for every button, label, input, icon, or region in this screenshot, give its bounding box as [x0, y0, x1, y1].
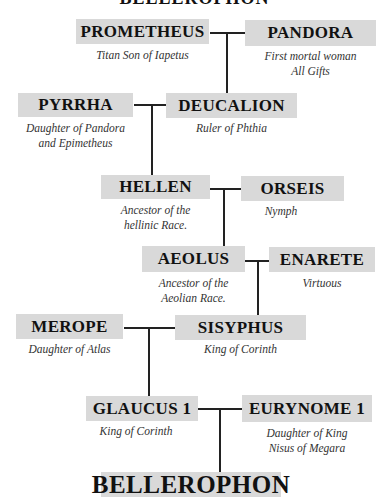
desc-sisyphus: King of Corinth — [175, 342, 306, 357]
desc-aeolus: Ancestor of the Aeolian Race. — [142, 276, 245, 306]
desc-line: Daughter of Pandora — [10, 121, 141, 136]
descent-line — [219, 408, 221, 472]
desc-line: All Gifts — [245, 64, 376, 79]
desc-glaucus: King of Corinth — [86, 424, 186, 439]
node-orseis: ORSEIS — [241, 176, 344, 201]
desc-line: Titan Son of Iapetus — [76, 48, 209, 63]
desc-line: Virtuous — [269, 276, 375, 291]
desc-eurynome: Daughter of King Nisus of Megara — [242, 426, 372, 456]
desc-line: Daughter of Atlas — [10, 342, 129, 357]
page-title: BELLEROPHON — [0, 0, 389, 9]
desc-line: Nymph — [241, 204, 321, 219]
node-enarete: ENARETE — [269, 247, 375, 272]
node-bellerophon: BELLEROPHON — [101, 472, 281, 497]
desc-line: Ruler of Phthia — [166, 121, 297, 136]
descent-line — [151, 104, 153, 175]
node-sisyphus: SISYPHUS — [175, 315, 306, 340]
desc-prometheus: Titan Son of Iapetus — [76, 48, 209, 63]
marriage-line — [134, 104, 166, 106]
desc-enarete: Virtuous — [269, 276, 375, 291]
node-pyrrha: PYRRHA — [18, 93, 133, 117]
node-merope: MEROPE — [16, 314, 123, 339]
node-hellen: HELLEN — [101, 175, 210, 199]
descent-line — [223, 188, 225, 246]
desc-line: Ancestor of the — [142, 276, 245, 291]
desc-merope: Daughter of Atlas — [10, 342, 129, 357]
node-glaucus: GLAUCUS 1 — [86, 396, 198, 421]
desc-deucalion: Ruler of Phthia — [166, 121, 297, 136]
node-eurynome: EURYNOME 1 — [242, 395, 372, 422]
marriage-line — [210, 32, 245, 34]
desc-hellen: Ancestor of the hellinic Race. — [101, 203, 210, 233]
desc-line: King of Corinth — [175, 342, 306, 357]
descent-line — [257, 260, 259, 315]
desc-line: Aeolian Race. — [142, 291, 245, 306]
marriage-line — [210, 188, 241, 190]
desc-pyrrha: Daughter of Pandora and Epimetheus — [10, 121, 141, 151]
desc-line: hellinic Race. — [101, 218, 210, 233]
node-deucalion: DEUCALION — [166, 93, 297, 118]
desc-orseis: Nymph — [241, 204, 321, 219]
desc-pandora: First mortal woman All Gifts — [245, 49, 376, 79]
node-pandora: PANDORA — [245, 20, 376, 46]
node-aeolus: AEOLUS — [142, 246, 245, 272]
desc-line: and Epimetheus — [10, 136, 141, 151]
marriage-line — [124, 327, 175, 329]
desc-line: Ancestor of the — [101, 203, 210, 218]
desc-line: Daughter of King — [242, 426, 372, 441]
descent-line — [148, 327, 150, 396]
descent-line — [226, 32, 228, 93]
desc-line: Nisus of Megara — [242, 441, 372, 456]
desc-line: First mortal woman — [245, 49, 376, 64]
desc-line: King of Corinth — [86, 424, 186, 439]
node-prometheus: PROMETHEUS — [76, 19, 209, 44]
